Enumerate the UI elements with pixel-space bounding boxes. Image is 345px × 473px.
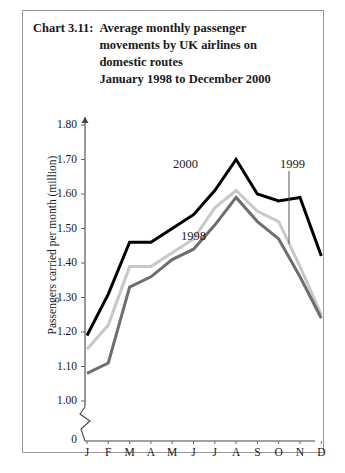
x-tick-label: J [206, 447, 224, 459]
y-tick-label: 1.50 [37, 223, 77, 235]
y-tick-label: 1.40 [37, 257, 77, 269]
plot-area: Passengers carried per month (million) 1… [23, 11, 325, 454]
x-tick-label: S [248, 447, 266, 459]
x-tick-label: N [291, 447, 309, 459]
x-tick-label: M [121, 447, 139, 459]
series-annotation-1999: 1999 [280, 158, 305, 171]
x-tick-label: J [185, 447, 203, 459]
series-group [87, 160, 321, 374]
chart-figure: Chart 3.11: Average monthly passenger mo… [22, 10, 324, 453]
y-tick-label: 1.20 [37, 326, 77, 338]
x-tick-label: F [99, 447, 117, 459]
series-annotation-2000: 2000 [173, 158, 198, 171]
y-tick-label: 1.10 [37, 361, 77, 373]
x-tick-label: D [312, 447, 330, 459]
y-tick-label: 1.30 [37, 292, 77, 304]
x-tick-label: A [142, 447, 160, 459]
x-tick-label: A [227, 447, 245, 459]
y-tick-label: 1.70 [37, 154, 77, 166]
y-origin-label: 0 [37, 434, 77, 446]
x-tick-label: J [78, 447, 96, 459]
y-tick-label: 1.80 [37, 119, 77, 131]
x-tick-label: M [163, 447, 181, 459]
series-annotation-1998: 1998 [181, 230, 206, 243]
x-tick-label: O [270, 447, 288, 459]
y-tick-label: 1.60 [37, 188, 77, 200]
series-line-1999 [87, 191, 321, 350]
y-tick-label: 1.00 [37, 395, 77, 407]
